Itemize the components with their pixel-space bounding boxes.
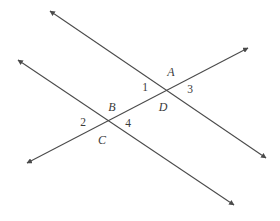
label-angle-4: 4 [125, 118, 131, 130]
label-B: B [108, 101, 115, 113]
line-transversal-rising [27, 48, 248, 163]
line-through-A-upper [50, 11, 266, 158]
label-angle-2: 2 [80, 117, 86, 129]
label-angle-1: 1 [142, 82, 148, 94]
geometry-figure: A B C D 1 2 3 4 [0, 0, 280, 221]
label-A: A [167, 66, 174, 78]
lines-canvas [0, 0, 280, 221]
label-D: D [159, 101, 168, 113]
label-C: C [98, 134, 106, 146]
label-angle-3: 3 [187, 84, 193, 96]
line-through-BC-lower [18, 60, 234, 205]
